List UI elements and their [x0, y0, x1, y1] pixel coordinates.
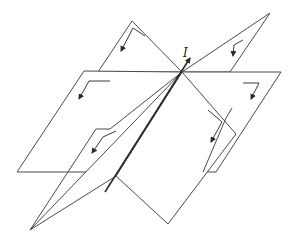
back-right-plane: [182, 13, 270, 72]
planes-diagram: I: [0, 0, 298, 245]
current-label: I: [182, 46, 188, 60]
diagram-canvas: I: [0, 0, 298, 245]
back-left-plane: [98, 21, 182, 72]
